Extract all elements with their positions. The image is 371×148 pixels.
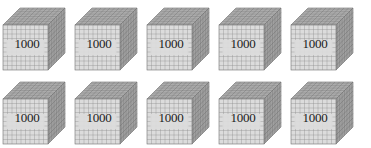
cube-graphic [75,77,138,145]
cube-graphic [147,77,210,145]
thousand-cube[interactable]: 1000 [291,3,354,71]
thousand-cube[interactable]: 1000 [219,77,282,145]
block-row: 1000 1000 1000 1000 1000 [0,0,371,74]
block-row: 1000 1000 1000 1000 1000 [0,74,371,148]
thousand-cube[interactable]: 1000 [75,77,138,145]
cube-front-face [291,99,336,144]
cube-graphic [147,3,210,71]
cube-front-face [147,25,192,70]
thousand-cube[interactable]: 1000 [147,77,210,145]
cube-graphic [75,3,138,71]
cube-graphic [3,77,66,145]
cube-front-face [75,25,120,70]
cube-graphic [291,3,354,71]
cube-graphic [219,77,282,145]
thousand-cube[interactable]: 1000 [75,3,138,71]
thousand-cube[interactable]: 1000 [147,3,210,71]
base-ten-blocks-canvas: 1000 1000 1000 1000 1000 1000 1000 1000 … [0,0,371,148]
cube-front-face [75,99,120,144]
cube-graphic [291,77,354,145]
cube-front-face [219,99,264,144]
thousand-cube[interactable]: 1000 [219,3,282,71]
cube-front-face [219,25,264,70]
thousand-cube[interactable]: 1000 [3,77,66,145]
cube-front-face [3,25,48,70]
cube-graphic [219,3,282,71]
cube-front-face [3,99,48,144]
cube-front-face [147,99,192,144]
thousand-cube[interactable]: 1000 [291,77,354,145]
cube-front-face [291,25,336,70]
cube-graphic [3,3,66,71]
thousand-cube[interactable]: 1000 [3,3,66,71]
